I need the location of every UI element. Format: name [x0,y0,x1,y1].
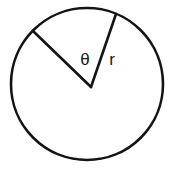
radius-label-r: r [109,50,115,69]
circle-angle-diagram: θ r [0,0,177,171]
figure-container: θ r [0,0,177,171]
angle-label-theta: θ [80,50,89,69]
